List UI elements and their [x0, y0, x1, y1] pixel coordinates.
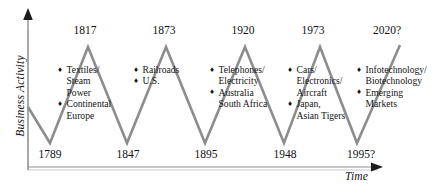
- annotation-line: Emerging: [366, 87, 427, 98]
- annotation-line: South Africa: [219, 98, 268, 109]
- annotation-line: Biotechnology: [366, 75, 427, 86]
- peak-year-label: 2020?: [357, 24, 417, 36]
- diamond-bullet-icon: ♦: [58, 64, 62, 75]
- annotation-item: ♦Infotechnology/Biotechnology: [357, 64, 427, 87]
- diamond-bullet-icon: ♦: [58, 98, 62, 109]
- annotation-block: ♦Telephones/Electricity♦AustraliaSouth A…: [210, 64, 267, 110]
- annotation-line: Power: [67, 87, 112, 98]
- trough-year-label: 1948: [255, 148, 315, 160]
- trough-year-label: 1895: [176, 148, 236, 160]
- annotation-block: ♦Textiles/SteamPower♦ContinentalEurope: [58, 64, 111, 121]
- annotation-item: ♦Cars/Electronics/Aircraft: [288, 64, 345, 98]
- peak-year-label: 1817: [55, 24, 115, 36]
- peak-year-label: 1973: [283, 24, 343, 36]
- diamond-bullet-icon: ♦: [288, 64, 292, 75]
- diamond-bullet-icon: ♦: [357, 86, 361, 97]
- trough-year-label: 1847: [98, 148, 158, 160]
- y-axis-label: Business Activity: [14, 41, 26, 151]
- annotation-line: Japan,: [297, 98, 346, 109]
- annotation-item: ♦EmergingMarkets: [357, 87, 427, 110]
- peak-year-label: 1873: [134, 24, 194, 36]
- annotation-block: ♦Infotechnology/Biotechnology♦EmergingMa…: [357, 64, 427, 110]
- diamond-bullet-icon: ♦: [357, 64, 361, 75]
- up-arrow-icon: [23, 8, 33, 20]
- annotation-line: Electronics/: [297, 75, 346, 86]
- annotation-line: Textiles/: [67, 64, 112, 75]
- annotation-line: Asian Tigers: [297, 110, 346, 121]
- annotation-block: ♦Railroads♦U.S.: [134, 64, 179, 87]
- trough-year-label: 1789: [20, 148, 80, 160]
- trough-year-label: 1995?: [331, 148, 391, 160]
- diamond-bullet-icon: ♦: [210, 86, 214, 97]
- annotation-block: ♦Cars/Electronics/Aircraft♦Japan,Asian T…: [288, 64, 345, 121]
- annotation-item: ♦Japan,Asian Tigers: [288, 98, 345, 121]
- annotation-item: ♦Railroads: [134, 64, 179, 75]
- diamond-bullet-icon: ♦: [210, 64, 214, 75]
- annotation-line: U.S.: [143, 75, 180, 86]
- annotation-item: ♦U.S.: [134, 75, 179, 86]
- annotation-line: Markets: [366, 98, 427, 109]
- annotation-item: ♦ContinentalEurope: [58, 98, 111, 121]
- annotation-item: ♦Telephones/Electricity: [210, 64, 267, 87]
- annotation-line: Aircraft: [297, 87, 346, 98]
- diamond-bullet-icon: ♦: [134, 64, 138, 75]
- annotation-line: Electricity: [219, 75, 268, 86]
- diamond-bullet-icon: ♦: [288, 98, 292, 109]
- annotation-line: Telephones/: [219, 64, 268, 75]
- diamond-bullet-icon: ♦: [134, 75, 138, 86]
- annotation-line: Steam: [67, 75, 112, 86]
- kondratiev-wave-chart: Business Activity Time 18171873192019732…: [0, 0, 439, 190]
- annotation-item: ♦AustraliaSouth Africa: [210, 87, 267, 110]
- annotation-line: Railroads: [143, 64, 180, 75]
- annotation-line: Australia: [219, 87, 268, 98]
- peak-year-label: 1920: [213, 24, 273, 36]
- annotation-line: Infotechnology/: [366, 64, 427, 75]
- annotation-item: ♦Textiles/SteamPower: [58, 64, 111, 98]
- annotation-line: Continental: [67, 98, 112, 109]
- x-axis-label: Time: [345, 170, 368, 182]
- annotation-line: Cars/: [297, 64, 346, 75]
- annotation-line: Europe: [67, 110, 112, 121]
